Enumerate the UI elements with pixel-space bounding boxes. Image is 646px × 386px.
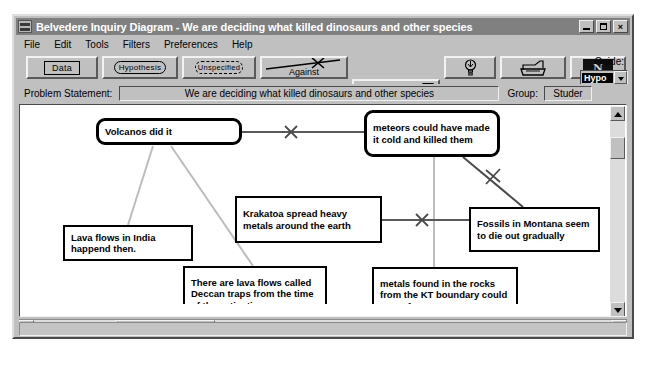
- menu-item-filters[interactable]: Filters: [123, 39, 150, 50]
- maximize-button[interactable]: [596, 20, 611, 33]
- menu-bar: File Edit Tools Filters Preferences Help: [16, 36, 630, 52]
- problem-statement-field[interactable]: We are deciding what killed dinosaurs an…: [119, 86, 499, 101]
- group-field[interactable]: Studer: [544, 86, 592, 101]
- node-text: Krakatoa spread heavy metals around the …: [243, 208, 374, 231]
- diagram-node-krakatoa[interactable]: Krakatoa spread heavy metals around the …: [235, 196, 382, 243]
- app-icon: [18, 20, 32, 33]
- title-bar: Belvedere Inquiry Diagram - We are decid…: [16, 18, 630, 35]
- problem-statement-bar: Problem Statement: We are deciding what …: [16, 84, 630, 102]
- hypothesis-node-button[interactable]: Hypothesis: [102, 56, 178, 79]
- against-link-label: Against: [262, 67, 346, 77]
- vertical-scrollbar-thumb[interactable]: [610, 137, 625, 159]
- node-text: meteors could have made it cold and kill…: [373, 122, 491, 145]
- window-title: Belvedere Inquiry Diagram - We are decid…: [36, 21, 579, 33]
- scroll-up-button[interactable]: [610, 106, 625, 121]
- lightbulb-icon: [464, 59, 477, 76]
- problem-statement-label: Problem Statement:: [24, 88, 112, 99]
- toolbar: Data Hypothesis Unspecified Against For: [16, 52, 630, 84]
- vscroll-track-upper[interactable]: [610, 121, 625, 137]
- link-meteors-against-fossils: [463, 157, 523, 207]
- chevron-down-icon[interactable]: [614, 71, 627, 84]
- hint-button[interactable]: [444, 56, 496, 79]
- unspecified-node-button[interactable]: Unspecified: [182, 56, 256, 79]
- menu-item-file[interactable]: File: [24, 39, 40, 50]
- node-text: Lava flows in India happend then.: [71, 232, 185, 255]
- diagram-node-volcanos[interactable]: Volcanos did it: [96, 118, 242, 145]
- diagram-node-fossils[interactable]: Fossils in Montana seem to die out gradu…: [469, 207, 600, 252]
- menu-item-tools[interactable]: Tools: [85, 39, 108, 50]
- diagram-node-meteors[interactable]: meteors could have made it cold and kill…: [364, 110, 500, 157]
- node-text: Volcanos did it: [105, 126, 172, 138]
- hypothesis-node-label: Hypothesis: [114, 61, 167, 74]
- menu-item-preferences[interactable]: Preferences: [164, 39, 218, 50]
- print-button[interactable]: [500, 56, 566, 79]
- window-controls: ×: [579, 20, 628, 33]
- node-text: metals found in the rocks from the KT bo…: [380, 278, 510, 304]
- guide-select[interactable]: Hypo: [580, 70, 628, 85]
- diagram-node-kt-metals[interactable]: metals found in the rocks from the KT bo…: [372, 267, 518, 304]
- application-window: Belvedere Inquiry Diagram - We are decid…: [12, 14, 634, 339]
- scroll-down-button[interactable]: [610, 302, 625, 317]
- vertical-scrollbar[interactable]: [610, 106, 625, 317]
- data-node-label: Data: [44, 61, 80, 75]
- guide-label: Guide:: [595, 56, 624, 67]
- group-label: Group:: [507, 88, 538, 99]
- node-text: Fossils in Montana seem to die out gradu…: [477, 218, 592, 241]
- printer-icon: [520, 59, 546, 76]
- menu-item-edit[interactable]: Edit: [54, 39, 71, 50]
- link-lava-india-for-volcanos: [128, 146, 153, 225]
- diagram-canvas-frame: Volcanos did it meteors could have made …: [19, 104, 627, 317]
- data-node-button[interactable]: Data: [26, 56, 98, 79]
- status-bar: [19, 322, 627, 336]
- diagram-canvas[interactable]: Volcanos did it meteors could have made …: [20, 105, 612, 304]
- node-text: There are lava flows called Deccan traps…: [191, 277, 319, 304]
- unspecified-node-label: Unspecified: [195, 61, 244, 74]
- close-button[interactable]: ×: [613, 20, 628, 33]
- menu-item-help[interactable]: Help: [232, 39, 253, 50]
- minimize-button[interactable]: [579, 20, 594, 33]
- guide-selected-value: Hypo: [582, 73, 613, 83]
- against-link-button[interactable]: Against: [260, 56, 348, 79]
- diagram-node-lava-india[interactable]: Lava flows in India happend then.: [63, 225, 193, 261]
- vscroll-track-lower[interactable]: [610, 159, 625, 302]
- diagram-node-deccan-traps[interactable]: There are lava flows called Deccan traps…: [183, 266, 327, 304]
